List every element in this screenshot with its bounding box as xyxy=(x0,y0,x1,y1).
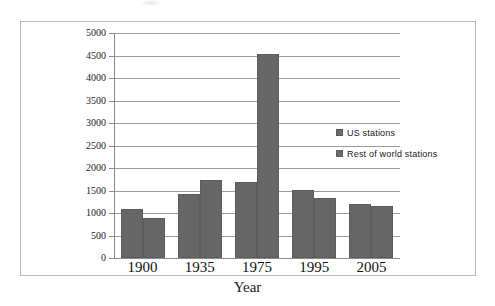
bar xyxy=(371,206,393,258)
x-axis-tick-label: 2005 xyxy=(343,259,400,276)
bar xyxy=(143,218,165,258)
x-axis-title: Year xyxy=(0,279,495,296)
y-axis-tick xyxy=(109,33,115,34)
gridline xyxy=(114,33,400,34)
y-axis-tick-label: 0 xyxy=(60,253,106,263)
y-axis-tick-label: 3500 xyxy=(60,96,106,106)
y-axis-tick xyxy=(109,213,115,214)
y-axis-tick xyxy=(109,258,115,259)
legend-item: Rest of world stations xyxy=(336,145,486,162)
y-axis-tick xyxy=(109,78,115,79)
y-axis-tick-label: 5000 xyxy=(60,28,106,38)
y-axis-tick-label: 500 xyxy=(60,231,106,241)
bar xyxy=(314,198,336,258)
y-axis-tick xyxy=(109,123,115,124)
bar xyxy=(292,190,314,258)
bar xyxy=(257,54,279,258)
x-axis-tick-label: 1935 xyxy=(171,259,228,276)
y-axis-tick-label: 2500 xyxy=(60,141,106,151)
y-axis-tick-labels: 5000450040003500300025002000150010005000 xyxy=(58,0,106,306)
y-axis-tick xyxy=(109,146,115,147)
y-axis-tick-label: 2000 xyxy=(60,163,106,173)
y-axis-tick-label: 3000 xyxy=(60,118,106,128)
legend-label: US stations xyxy=(347,128,395,138)
y-axis-tick-label: 4500 xyxy=(60,51,106,61)
bar xyxy=(200,180,222,258)
y-axis-tick-label: 4000 xyxy=(60,73,106,83)
y-axis-tick xyxy=(109,168,115,169)
bar xyxy=(178,194,200,258)
legend-swatch-icon xyxy=(336,150,343,157)
x-axis-tick-label: 1995 xyxy=(286,259,343,276)
y-axis-tick xyxy=(109,191,115,192)
y-axis-tick xyxy=(109,56,115,57)
bar xyxy=(235,182,257,258)
x-axis-tick-label: 1975 xyxy=(228,259,285,276)
legend-swatch-icon xyxy=(336,129,343,136)
y-axis-tick xyxy=(109,236,115,237)
legend-item: US stations xyxy=(336,124,486,141)
y-axis-tick-label: 1500 xyxy=(60,186,106,196)
legend-label: Rest of world stations xyxy=(347,149,437,159)
bar-chart-figure: 5000450040003500300025002000150010005000… xyxy=(0,0,495,306)
chart-legend: US stationsRest of world stations xyxy=(336,124,486,166)
bar xyxy=(121,209,143,258)
y-axis-tick-label: 1000 xyxy=(60,208,106,218)
x-axis-tick-label: 1900 xyxy=(114,259,171,276)
bar xyxy=(349,204,371,258)
y-axis-tick xyxy=(109,101,115,102)
